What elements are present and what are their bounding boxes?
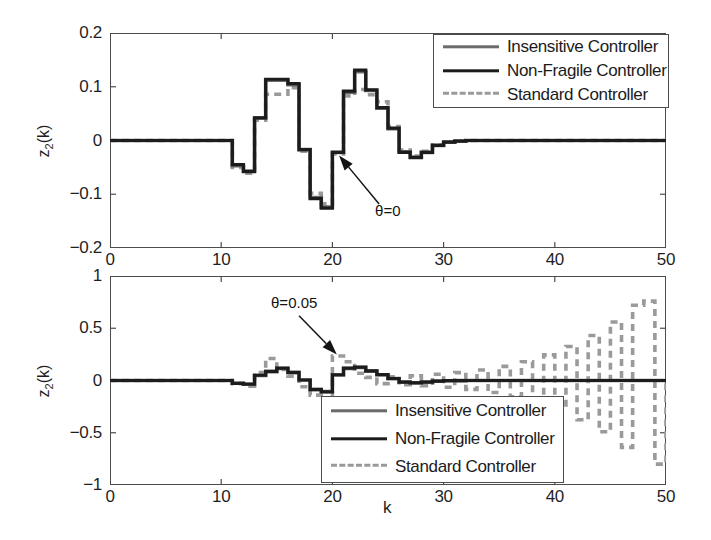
x-tick-label: 30 — [434, 250, 452, 270]
y-axis-label-bottom: z2(k) — [35, 351, 55, 411]
legend-line-sample-non-fragile — [443, 65, 499, 77]
legend-row-non-fragile: Non-Fragile Controller — [434, 59, 668, 83]
y-axis-label-top: z2(k) — [35, 111, 55, 171]
y-tick-label: 0.5 — [48, 318, 102, 338]
x-tick-label: 40 — [546, 487, 564, 507]
x-tick-label: 50 — [657, 250, 675, 270]
annotation-theta-zero: θ=0 — [375, 202, 400, 219]
legend-line-sample-standard — [331, 461, 387, 473]
y-tick-label: −1 — [48, 475, 102, 495]
legend-label-non-fragile: Non-Fragile Controller — [395, 429, 555, 449]
x-tick-label: 40 — [546, 250, 564, 270]
annotation-theta-005: θ=0.05 — [271, 294, 317, 311]
x-tick-label: 0 — [105, 487, 114, 507]
legend-row-non-fragile: Non-Fragile Controller — [322, 425, 563, 453]
legend-bottom: Insensitive Controller Non-Fragile Contr… — [321, 396, 564, 483]
x-tick-label: 50 — [657, 487, 675, 507]
legend-row-standard: Standard Controller — [322, 453, 563, 481]
x-tick-label: 10 — [212, 487, 230, 507]
legend-line-sample-insensitive — [331, 405, 387, 417]
y-tick-label: 0.1 — [48, 77, 102, 97]
y-tick-label: 1 — [48, 266, 102, 286]
y-tick-label: −0.5 — [48, 423, 102, 443]
legend-row-insensitive: Insensitive Controller — [434, 35, 668, 59]
x-tick-label: 0 — [105, 250, 114, 270]
legend-line-sample-insensitive — [443, 41, 499, 53]
y-tick-label: −0.1 — [48, 184, 102, 204]
y-tick-label: 0 — [48, 371, 102, 391]
legend-label-standard: Standard Controller — [507, 85, 648, 105]
y-tick-label: 0.2 — [48, 23, 102, 43]
legend-label-standard: Standard Controller — [395, 457, 536, 477]
x-axis-label: k — [383, 498, 392, 518]
legend-label-insensitive: Insensitive Controller — [395, 401, 546, 421]
y-tick-label: 0 — [48, 131, 102, 151]
x-tick-label: 10 — [212, 250, 230, 270]
legend-label-insensitive: Insensitive Controller — [507, 37, 658, 57]
legend-label-non-fragile: Non-Fragile Controller — [507, 61, 667, 81]
x-tick-label: 30 — [434, 487, 452, 507]
y-tick-label: −0.2 — [48, 238, 102, 258]
x-tick-label: 20 — [323, 250, 341, 270]
figure-canvas: −0.2−0.100.10.2 01020304050 z2(k) θ=0 In… — [0, 0, 711, 540]
legend-row-standard: Standard Controller — [434, 83, 668, 107]
legend-top: Insensitive Controller Non-Fragile Contr… — [433, 34, 669, 108]
legend-line-sample-non-fragile — [331, 433, 387, 445]
legend-line-sample-standard — [443, 89, 499, 101]
x-tick-label: 20 — [323, 487, 341, 507]
legend-row-insensitive: Insensitive Controller — [322, 397, 563, 425]
